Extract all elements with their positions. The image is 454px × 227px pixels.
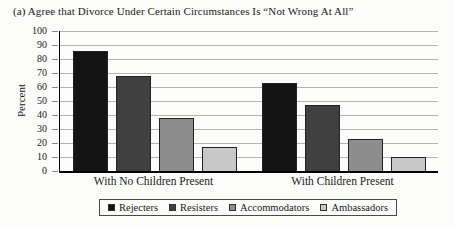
legend-label-resisters: Resisters [180, 202, 218, 213]
legend-swatch-accommodators [229, 204, 236, 211]
bar-resisters-no-children [116, 76, 151, 171]
y-tick-mark-30 [52, 129, 58, 130]
x-axis-category-labels: With No Children Present With Children P… [59, 175, 437, 187]
y-tick-mark-70 [52, 73, 58, 74]
legend-item-accommodators: Accommodators [229, 202, 309, 213]
legend-wrap: RejectersResistersAccommodatorsAmbassado… [59, 199, 437, 216]
y-tick-label-70: 70 [37, 68, 47, 78]
y-tick-mark-60 [52, 87, 58, 88]
bar-rejecters-children [262, 83, 297, 171]
y-tick-mark-20 [52, 143, 58, 144]
bar-resisters-children [305, 105, 340, 171]
bar-group-children [249, 31, 438, 171]
y-axis-tick-labels: 0102030405060708090100 [20, 31, 47, 171]
y-tick-mark-80 [52, 59, 58, 60]
divorce-attitudes-bar-chart: (a) Agree that Divorce Under Certain Cir… [0, 0, 454, 227]
bar-rejecters-no-children [73, 51, 108, 171]
legend: RejectersResistersAccommodatorsAmbassado… [99, 199, 397, 216]
bar-accommodators-no-children [159, 118, 194, 171]
bar-ambassadors-children [391, 157, 426, 171]
category-label-children: With Children Present [248, 175, 437, 187]
y-tick-label-60: 60 [37, 82, 47, 92]
y-tick-mark-50 [52, 101, 58, 102]
y-tick-label-100: 100 [32, 26, 47, 36]
legend-label-ambassadors: Ambassadors [331, 202, 388, 213]
legend-label-rejecters: Rejecters [119, 202, 158, 213]
y-tick-mark-90 [52, 45, 58, 46]
y-tick-label-10: 10 [37, 152, 47, 162]
legend-item-resisters: Resisters [169, 202, 218, 213]
y-tick-label-0: 0 [42, 166, 47, 176]
legend-item-rejecters: Rejecters [108, 202, 158, 213]
bar-groups [60, 31, 438, 171]
legend-swatch-rejecters [108, 204, 115, 211]
y-tick-mark-40 [52, 115, 58, 116]
y-axis-tick-marks [52, 31, 58, 171]
bar-accommodators-children [348, 139, 383, 171]
y-tick-label-30: 30 [37, 124, 47, 134]
y-tick-label-20: 20 [37, 138, 47, 148]
y-tick-label-50: 50 [37, 96, 47, 106]
plot-area [59, 31, 438, 173]
y-tick-mark-100 [52, 31, 58, 32]
legend-swatch-ambassadors [320, 204, 327, 211]
chart-title: (a) Agree that Divorce Under Certain Cir… [13, 5, 353, 17]
bar-group-no-children [60, 31, 249, 171]
y-tick-label-90: 90 [37, 40, 47, 50]
legend-item-ambassadors: Ambassadors [320, 202, 388, 213]
y-tick-mark-0 [52, 171, 58, 172]
bar-ambassadors-no-children [202, 147, 237, 171]
y-tick-label-80: 80 [37, 54, 47, 64]
y-tick-mark-10 [52, 157, 58, 158]
y-tick-label-40: 40 [37, 110, 47, 120]
legend-label-accommodators: Accommodators [240, 202, 309, 213]
legend-swatch-resisters [169, 204, 176, 211]
category-label-no-children: With No Children Present [59, 175, 248, 187]
